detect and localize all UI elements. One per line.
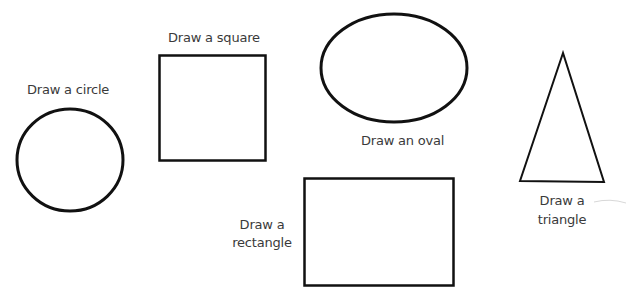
square-label: Draw a square [168,29,260,47]
circle-shape [17,109,123,211]
shapes-worksheet: Draw a circle Draw a square Draw an oval… [0,0,626,302]
triangle-shape [520,53,604,182]
oval-shape [321,14,467,122]
triangle-label-line1: Draw a [540,192,585,210]
shapes-drawing [0,0,626,302]
faint-stray-mark [594,200,626,203]
rectangle-shape [305,179,454,286]
rectangle-label-line1: Draw a [240,216,285,234]
oval-label: Draw an oval [361,132,444,150]
triangle-label-line2: triangle [538,211,587,229]
square-shape [160,56,266,161]
rectangle-label-line2: rectangle [232,234,292,252]
circle-label: Draw a circle [27,81,109,99]
